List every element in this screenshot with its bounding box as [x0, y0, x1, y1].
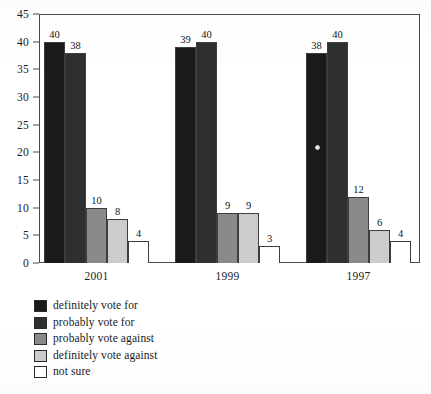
- legend-item: definitely vote for: [34, 299, 254, 316]
- cropped-title-fragment-right: ....: [196, 0, 208, 3]
- legend-item: probably vote against: [34, 332, 254, 349]
- legend-item: not sure: [34, 365, 254, 382]
- x-axis-group-label: 2001: [85, 270, 109, 282]
- bar-value-label: 10: [91, 195, 102, 206]
- bar-value-label: 9: [225, 200, 230, 211]
- y-axis-tick-label: 15: [17, 174, 29, 186]
- x-axis-group-label: 1999: [216, 270, 240, 282]
- bar-value-label: 8: [115, 206, 120, 217]
- legend-color-swatch: [34, 366, 47, 378]
- y-axis-tick-label: 45: [17, 8, 29, 20]
- bar: [86, 208, 107, 263]
- legend-color-swatch: [34, 300, 47, 312]
- x-axis-group-label: 1997: [347, 270, 371, 282]
- bar: [238, 213, 259, 263]
- bar: [44, 42, 65, 263]
- legend-item-label: probably vote for: [53, 316, 135, 328]
- bar: [369, 230, 390, 263]
- bar-value-label: 4: [398, 228, 403, 239]
- legend-item: definitely vote against: [34, 349, 254, 366]
- bar-value-label: 38: [311, 40, 322, 51]
- bar-value-label: 38: [70, 40, 81, 51]
- y-axis-tick-label: 35: [17, 63, 29, 75]
- y-axis-tick-label: 40: [17, 36, 29, 48]
- bar-value-label: 6: [377, 217, 382, 228]
- bar-value-label: 3: [267, 233, 272, 244]
- bar: [128, 241, 149, 263]
- y-axis-tick-label: 5: [23, 229, 29, 241]
- y-axis-tick-label: 25: [17, 119, 29, 131]
- scan-artifact-speck: [315, 145, 320, 150]
- legend-item-label: not sure: [53, 365, 91, 377]
- bar-value-label: 12: [353, 184, 364, 195]
- y-axis-tick-label: 0: [23, 257, 29, 269]
- y-axis-tick-label: 10: [17, 202, 29, 214]
- chart-legend: definitely vote forprobably vote forprob…: [34, 299, 254, 382]
- legend-item: probably vote for: [34, 316, 254, 333]
- bar: [259, 246, 280, 263]
- bar-value-label: 4: [136, 228, 141, 239]
- legend-item-label: probably vote against: [53, 332, 154, 344]
- legend-color-swatch: [34, 317, 47, 329]
- legend-item-label: definitely vote against: [53, 349, 158, 361]
- bar: [107, 219, 128, 263]
- bar: [306, 53, 327, 263]
- y-axis-tick-label: 20: [17, 146, 29, 158]
- bar-series-layer: 40381084394099338401264: [39, 14, 420, 263]
- cropped-title: ...... ....: [0, 0, 431, 3]
- bar-value-label: 40: [49, 29, 60, 40]
- legend-color-swatch: [34, 350, 47, 362]
- bar-value-label: 40: [332, 29, 343, 40]
- bar: [348, 197, 369, 263]
- legend-item-label: definitely vote for: [53, 299, 138, 311]
- bar: [217, 213, 238, 263]
- bar-value-label: 39: [180, 34, 191, 45]
- bar: [327, 42, 348, 263]
- bar-value-label: 40: [201, 29, 212, 40]
- bar: [65, 53, 86, 263]
- bar: [175, 47, 196, 263]
- y-axis-tick-label: 30: [17, 91, 29, 103]
- bar-value-label: 9: [246, 200, 251, 211]
- bar: [390, 241, 411, 263]
- bar: [196, 42, 217, 263]
- legend-color-swatch: [34, 333, 47, 345]
